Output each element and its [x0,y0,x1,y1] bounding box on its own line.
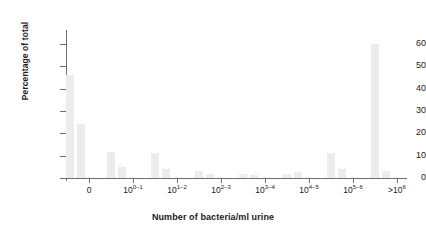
bar [107,152,115,178]
bar [283,174,291,178]
x-axis-line [66,178,407,179]
bar [195,171,203,178]
x-tick-label: 105–6 [343,185,362,195]
chart-container: Percentage of total 0102030405060 0100–1… [0,0,426,242]
y-axis-title: Percentage of total [20,0,30,126]
x-tick-label: 0 [87,185,92,195]
bar [206,174,214,178]
x-tick-mark [353,178,354,183]
bars-layer [66,33,407,178]
bar [66,75,74,178]
bar [162,169,170,178]
x-tick-label: 104–5 [299,185,318,195]
x-tick-mark [221,178,222,183]
x-tick-mark [265,178,266,183]
bar [382,171,390,178]
x-tick-label: 101–2 [167,185,186,195]
x-axis-title: Number of bacteria/ml urine [0,212,426,222]
bar [239,174,247,178]
bar [151,153,159,178]
x-tick-label: >106 [388,185,406,195]
x-tick-label: 100–1 [123,185,142,195]
bar [118,167,126,178]
x-tick-mark [309,178,310,183]
x-tick-label: 102–3 [211,185,230,195]
x-tick-mark [397,178,398,183]
bar [250,175,258,178]
x-tick-mark [89,178,90,183]
x-tick-mark [133,178,134,183]
bar [371,44,379,178]
bar [338,169,346,178]
bar [77,124,85,178]
x-tick-mark [177,178,178,183]
x-tick-label: 103–4 [255,185,274,195]
bar [294,172,302,178]
bar [327,153,335,178]
